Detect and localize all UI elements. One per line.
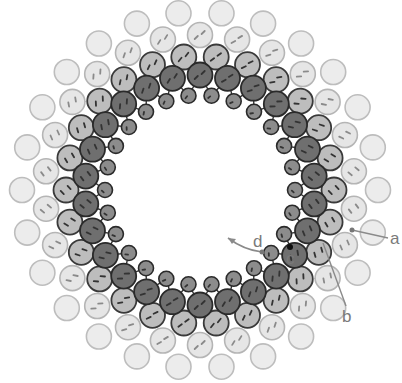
inner-small-ring-atom [288,183,303,198]
spin-dash [230,102,232,103]
outer-plain-ring-atom [15,220,40,245]
outer-plain-ring-atom [251,344,276,369]
inner-small-ring-atom [159,271,174,286]
dark-ring-atom [80,137,105,162]
spin-dash [100,257,104,258]
light-dashed-ring-atom [290,294,315,319]
spin-dash [113,146,114,149]
light-dashed-ring-atom [332,233,357,258]
spin-dash [272,301,273,305]
spin-dash [266,55,270,56]
spin-dash [296,122,300,123]
outer-plain-ring-atom [360,135,385,160]
spin-dash [281,147,284,148]
inner-small-ring-atom [264,246,279,261]
dark-ring-atom [73,164,98,189]
outer-plain-ring-atom [124,344,149,369]
dark-ring-atom [241,76,266,101]
outer-plain-ring-atom [251,11,276,36]
dark-ring-atom [188,63,213,88]
inner-small-ring-atom [247,261,262,276]
light-dashed-ring-atom [290,62,315,87]
light-dashed-ring-atom [260,40,285,65]
spin-dash [321,248,322,252]
inner-small-ring-atom [100,205,115,220]
inner-small-ring-atom [247,104,262,119]
light-dashed-ring-atom [225,27,250,52]
medium-gray-ring-atom [288,89,313,114]
spin-dash [120,80,121,84]
spin-dash [84,123,85,127]
inner-small-ring-atom [226,271,241,286]
outer-plain-ring-atom [166,354,191,379]
spin-dash [314,253,315,257]
outer-plain-ring-atom [10,178,35,203]
spin-dash [106,252,110,253]
light-dashed-ring-atom [116,40,141,65]
inner-small-ring-atom [98,183,113,198]
atom-rings [10,1,391,379]
spin-dash [141,294,145,295]
spin-dash [104,214,106,215]
spin-dash [289,127,293,128]
spin-dash [75,97,76,101]
inner-small-ring-atom [159,94,174,109]
inner-small-ring-atom [121,246,136,261]
dark-ring-atom [111,264,136,289]
inner-small-ring-atom [108,227,123,242]
spin-dash [129,324,133,325]
dark-ring-atom [282,112,307,137]
inner-small-ring-atom [121,120,136,135]
inner-small-ring-atom [100,160,115,175]
outer-plain-ring-atom [54,60,79,85]
spin-dash [164,102,165,104]
inner-small-ring-atom [181,88,196,103]
light-dashed-ring-atom [34,159,59,184]
spin-dash [105,168,106,170]
spin-dash [329,99,333,100]
light-dashed-ring-atom [150,328,175,353]
dark-ring-atom [93,112,118,137]
spin-dash [185,285,187,287]
spin-dash [68,102,69,106]
spin-dash [163,280,165,281]
spin-dash [77,128,78,132]
spin-dash [144,112,145,115]
dark-ring-atom [264,91,289,116]
outer-plain-ring-atom [209,354,234,379]
spin-dash [122,329,126,330]
spin-dash [127,75,128,79]
medium-gray-ring-atom [264,67,289,92]
dark-ring-atom [302,164,327,189]
light-dashed-ring-atom [85,294,110,319]
dark-ring-atom [134,279,159,304]
spin-dash [279,296,280,300]
medium-gray-ring-atom [87,266,112,291]
outer-plain-ring-atom [345,260,370,285]
light-dashed-ring-atom [85,62,110,87]
outer-plain-ring-atom [86,324,111,349]
spin-dash [277,77,281,78]
outer-plain-ring-atom [30,95,55,120]
spin-dash [297,251,298,255]
dark-ring-atom [215,289,240,314]
spin-dash [248,90,252,91]
inner-small-ring-atom [139,261,154,276]
leader-dot-a [350,228,355,233]
spin-dash [255,85,259,86]
dark-ring-atom [188,293,213,318]
spin-dash [118,302,122,303]
outer-plain-ring-atom [86,31,111,56]
outer-plain-ring-atom [345,95,370,120]
light-dashed-ring-atom [34,196,59,221]
label-d: d [253,232,262,251]
inner-small-ring-atom [285,205,300,220]
light-dashed-ring-atom [260,315,285,340]
label-c: c [286,249,295,268]
light-dashed-ring-atom [341,159,366,184]
spin-dash [108,120,109,124]
spin-dash [323,278,324,282]
inner-small-ring-atom [108,138,123,153]
dark-ring-atom [295,218,320,243]
inner-small-ring-atom [264,120,279,135]
